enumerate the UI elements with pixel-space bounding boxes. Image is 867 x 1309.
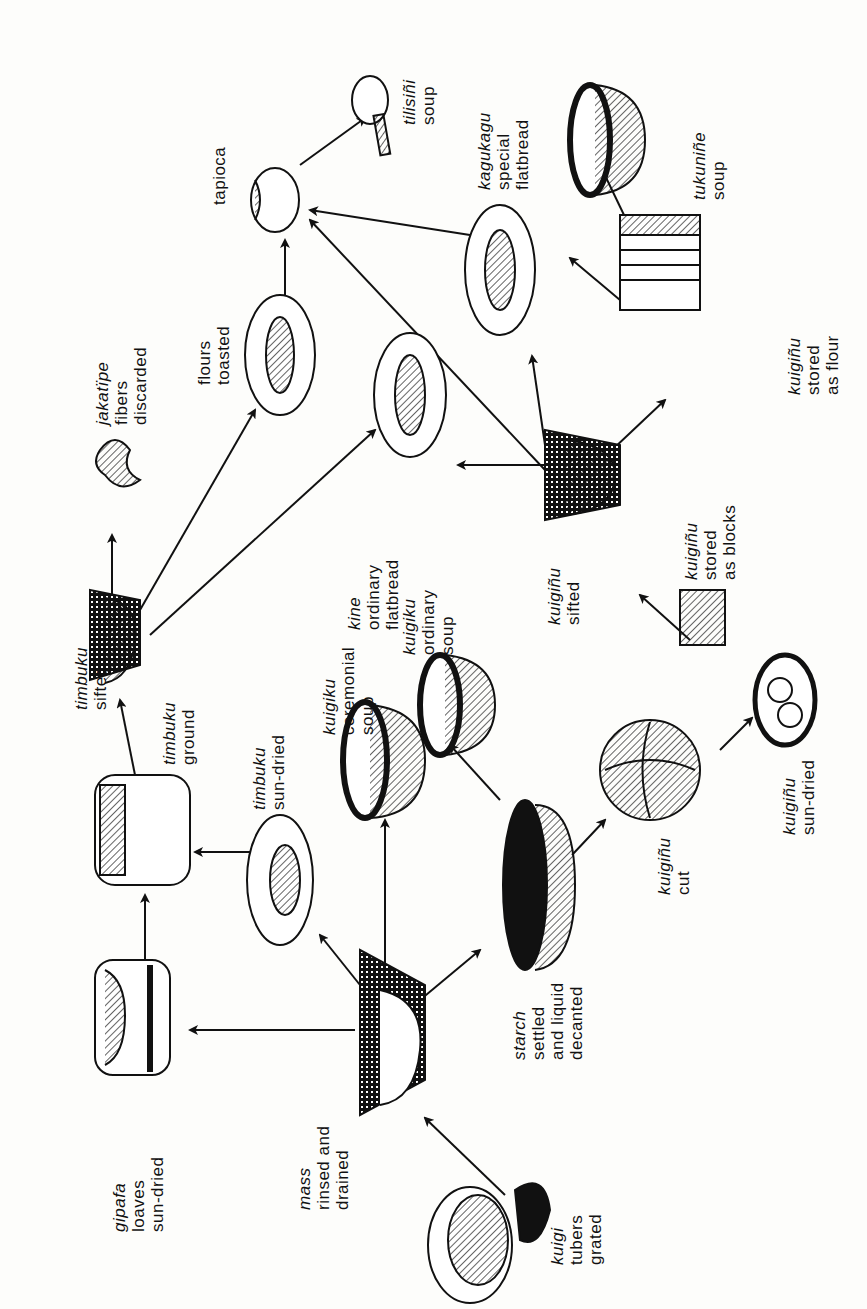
label-kuigiku-ceremonial: kuigiku ceremonial soup xyxy=(320,647,377,735)
label-mass-rinsed: mass rinsed and drained xyxy=(295,1126,352,1210)
label-tapioca: tapioca xyxy=(210,147,229,205)
label-jakatipe-fibers: jakatïpe fibers discarded xyxy=(93,347,150,425)
label-timbuku-ground: timbuku ground xyxy=(160,702,198,765)
label-gipafa-loaves: gipafa loaves sun-dried xyxy=(110,1157,167,1232)
label-kuigino-cut: kuigiñu cut xyxy=(655,838,693,895)
label-flours-toasted: flours toasted xyxy=(195,326,233,385)
label-kuigino-flour: kuigiñu stored as flour xyxy=(785,335,842,395)
label-timbuku-sifted: timbuku sifted xyxy=(72,647,110,710)
label-kuigino-blocks: kuigiñu stored as blocks xyxy=(682,505,739,580)
label-timbuku-sun-dried: timbuku sun-dried xyxy=(250,735,288,810)
label-starch-settled: starch settled and liquid decanted xyxy=(510,982,586,1060)
label-kuigino-sun-dried: kuigiñu sun-dried xyxy=(780,760,818,835)
illustrations xyxy=(90,76,815,1303)
label-kuigi-tubers-grated: kuigi tubers grated xyxy=(548,1214,605,1265)
label-kagukagu-flatbread: kagukagu special flatbread xyxy=(475,112,532,190)
label-tukunine-soup: tukuniñe soup xyxy=(690,132,728,200)
label-tilisini-soup: tilisiñi soup xyxy=(400,79,438,125)
label-kuigino-sifted: kuigiñu sifted xyxy=(545,568,583,625)
label-kuigiku-ordinary: kuigiku ordinary soup xyxy=(400,590,457,655)
diagram-canvas: kuigi tubers grated mass rinsed and drai… xyxy=(0,0,867,1309)
label-kine-flatbread: kine ordinary flatbread xyxy=(345,559,402,630)
